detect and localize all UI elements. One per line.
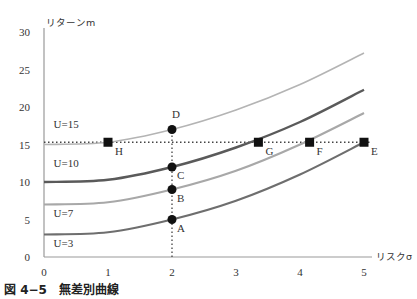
figure-caption: 図 4−5 無差別曲線 (4, 280, 119, 297)
point-c (168, 163, 177, 172)
point-label: C (177, 169, 184, 181)
point-label: B (177, 192, 184, 204)
y-axis-label: リターンm (46, 17, 95, 28)
x-tick-label: 5 (361, 266, 367, 278)
point-b (168, 185, 177, 194)
y-tick-label: 20 (19, 101, 31, 113)
curve-label: U=3 (54, 237, 74, 249)
point-label: G (265, 145, 273, 157)
point-label: D (172, 108, 180, 120)
point-label: H (115, 145, 123, 157)
x-tick-label: 3 (233, 266, 239, 278)
curve-label: U=10 (54, 157, 80, 169)
point-label: E (371, 145, 378, 157)
x-tick-label: 4 (297, 266, 303, 278)
point-a (168, 215, 177, 224)
x-tick-label: 0 (41, 266, 47, 278)
point-e (360, 138, 369, 147)
indifference-curve-u15 (44, 53, 364, 145)
y-tick-label: 0 (25, 251, 31, 263)
point-d (168, 125, 177, 134)
point-f (305, 138, 314, 147)
x-tick-label: 1 (105, 266, 111, 278)
point-label: A (177, 222, 185, 234)
y-tick-label: 5 (25, 214, 31, 226)
point-g (254, 138, 263, 147)
y-tick-label: 30 (19, 26, 31, 38)
indifference-curve-chart: リターンmリスクσ051015202530012345U=15U=10U=7U=… (0, 0, 417, 280)
y-tick-label: 25 (19, 64, 31, 76)
point-h (104, 138, 113, 147)
curve-label: U=7 (54, 207, 74, 219)
x-axis-label: リスクσ (376, 251, 412, 262)
y-tick-label: 10 (19, 176, 31, 188)
point-label: F (317, 145, 323, 157)
x-tick-label: 2 (169, 266, 175, 278)
curve-label: U=15 (54, 118, 80, 130)
y-tick-label: 15 (19, 139, 31, 151)
